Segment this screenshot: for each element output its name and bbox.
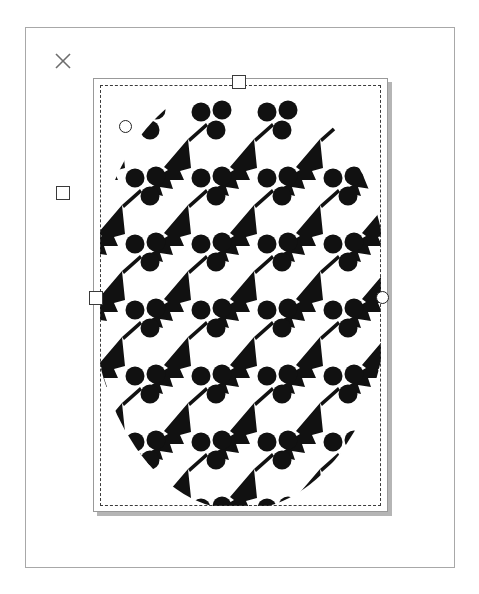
rotate-handle-middle-right[interactable] [376, 291, 389, 304]
editor-canvas-root [0, 0, 479, 594]
pattern-artwork[interactable] [100, 85, 381, 506]
resize-handle-middle-left[interactable] [89, 291, 103, 305]
close-x-icon[interactable] [54, 52, 72, 70]
resize-handle-top-center[interactable] [232, 75, 246, 89]
anchor-point-circle-marker[interactable] [119, 120, 132, 133]
detached-square-handle[interactable] [56, 186, 70, 200]
